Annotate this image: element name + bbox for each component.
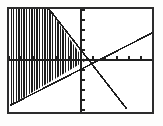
screenshot-root: [0, 0, 163, 126]
graph-figure: [0, 0, 163, 126]
graph-canvas: [0, 0, 163, 126]
